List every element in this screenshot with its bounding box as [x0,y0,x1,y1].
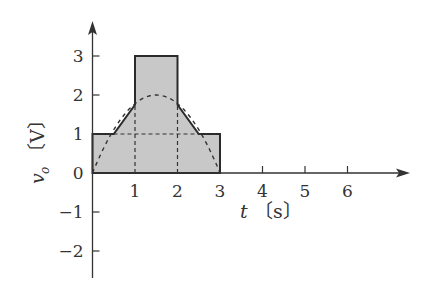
x-tick-label: 4 [257,181,268,201]
x-axis-label: t 〔s〕 [240,200,302,222]
x-tick-label: 3 [215,181,226,201]
x-tick-label: 6 [342,181,353,201]
y-tick-label: 1 [73,124,84,144]
plot-area [93,56,221,173]
y-axis-label-sub: o [38,167,52,174]
y-tick-label: 0 [73,163,84,183]
y-axis-label-unit: 〔V〕 [26,110,48,162]
y-tick-label: 2 [73,85,84,105]
y-axis-label: v o 〔V〕 [26,110,52,184]
chart: 1234563210−1−2 t 〔s〕 v o 〔V〕 [0,0,435,289]
x-axis-label-unit: 〔s〕 [254,200,302,222]
y-tick-label: −1 [58,202,83,222]
x-tick-label: 5 [300,181,311,201]
y-tick-label: 3 [73,46,84,66]
x-tick-label: 1 [130,181,141,201]
x-tick-label: 2 [172,181,183,201]
shaded-waveform [93,56,221,173]
y-tick-label: −2 [58,241,83,261]
x-axis-label-var: t [240,200,248,222]
